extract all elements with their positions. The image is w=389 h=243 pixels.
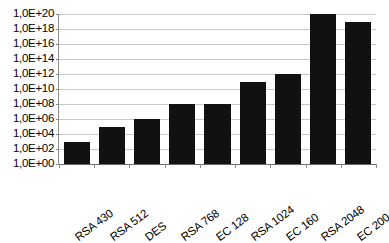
x-axis-tick-label: DES [143,233,150,243]
y-axis-tick-label: 1,0E+14 [13,53,54,65]
x-axis-tick-label: EC 200 [354,233,361,243]
y-axis-tick-label: 1,0E+08 [13,98,54,110]
y-axis-tick-mark [56,14,59,15]
bar-slot [129,14,164,164]
bar[interactable] [275,74,301,164]
bar-slot [270,14,305,164]
bar[interactable] [204,104,230,164]
bar-chart: 1,0E+201,0E+181,0E+161,0E+141,0E+121,0E+… [0,0,389,243]
bar[interactable] [310,14,336,164]
y-axis-labels: 1,0E+201,0E+181,0E+161,0E+141,0E+121,0E+… [0,0,57,172]
y-axis-tick-label: 1,0E+20 [13,8,54,20]
y-axis-tick-mark [56,104,59,105]
x-axis-tick-label: RSA 768 [178,233,185,243]
plot-area [58,14,376,165]
x-axis-tick-label: RSA 2048 [319,233,326,243]
x-axis-tick-mark [376,164,377,168]
y-axis-tick-mark [56,119,59,120]
x-axis-labels: RSA 430RSA 512DESRSA 768EC 128RSA 1024EC… [58,168,375,243]
y-axis-tick-label: 1,0E+04 [13,128,54,140]
y-axis-tick-mark [56,89,59,90]
y-axis-tick-mark [56,44,59,45]
bar[interactable] [134,119,160,164]
y-axis-tick-label: 1,0E+00 [13,158,54,170]
bars-layer [59,14,376,164]
y-axis-tick-label: 1,0E+16 [13,38,54,50]
y-axis-tick-mark [56,74,59,75]
y-axis-tick-label: 1,0E+02 [13,143,54,155]
bar-slot [165,14,200,164]
y-axis-tick-label: 1,0E+06 [13,113,54,125]
bar-slot [200,14,235,164]
x-axis-tick-label: EC 128 [213,233,220,243]
bar-slot [341,14,376,164]
bar[interactable] [169,104,195,164]
bar-slot [94,14,129,164]
y-axis-tick-mark [56,29,59,30]
x-axis-tick-label: EC 160 [284,233,291,243]
bar-slot [306,14,341,164]
bar-slot [59,14,94,164]
y-axis-tick-mark [56,149,59,150]
y-axis-tick-label: 1,0E+12 [13,68,54,80]
y-axis-tick-mark [56,59,59,60]
bar[interactable] [240,82,266,165]
bar[interactable] [99,127,125,165]
bar[interactable] [64,142,90,165]
x-axis-tick-label: RSA 430 [73,233,80,243]
x-axis-tick-label: RSA 1024 [249,233,256,243]
y-axis-tick-label: 1,0E+18 [13,23,54,35]
x-axis-tick-label: RSA 512 [108,233,115,243]
bar-slot [235,14,270,164]
y-axis-tick-mark [56,164,59,165]
bar[interactable] [345,22,371,165]
y-axis-tick-mark [56,134,59,135]
y-axis-tick-label: 1,0E+10 [13,83,54,95]
